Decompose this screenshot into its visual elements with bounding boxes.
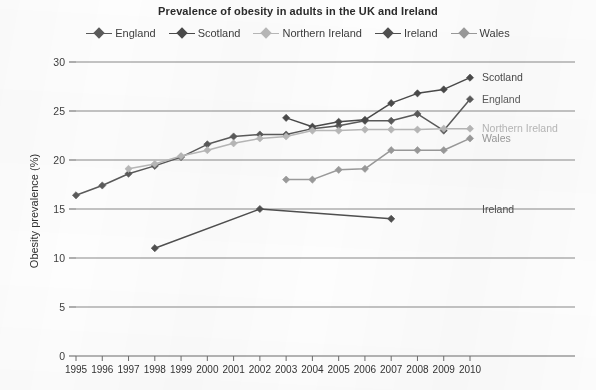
- x-tick-label-2001: 2001: [222, 364, 245, 375]
- x-tick-label-2003: 2003: [275, 364, 298, 375]
- y-tick-label-15: 15: [53, 203, 65, 215]
- data-point-marker: [230, 133, 237, 140]
- x-tick-label-2004: 2004: [301, 364, 324, 375]
- data-point-marker: [414, 90, 421, 97]
- x-tick-label-1998: 1998: [144, 364, 167, 375]
- data-point-marker: [151, 245, 158, 252]
- data-point-marker: [361, 126, 368, 133]
- x-tick-label-2000: 2000: [196, 364, 219, 375]
- series-end-labels: EnglandScotlandNorthern IrelandIrelandWa…: [482, 71, 558, 214]
- y-tick-label-30: 30: [53, 56, 65, 68]
- data-point-marker: [230, 140, 237, 147]
- x-tick-label-2006: 2006: [354, 364, 377, 375]
- data-point-marker: [440, 147, 447, 154]
- y-axis-title: Obesity prevalence (%): [28, 131, 40, 291]
- data-point-marker: [335, 166, 342, 173]
- data-point-marker: [414, 147, 421, 154]
- series-end-label-scotland: Scotland: [482, 71, 523, 83]
- series-line-ireland: [155, 209, 391, 248]
- y-tick-label-10: 10: [53, 252, 65, 264]
- data-point-marker: [466, 135, 473, 142]
- data-point-marker: [72, 192, 79, 199]
- x-tick-label-2008: 2008: [406, 364, 429, 375]
- y-tick-label-5: 5: [59, 301, 65, 313]
- x-tick-label-1999: 1999: [170, 364, 193, 375]
- data-point-marker: [283, 176, 290, 183]
- series-line-scotland: [286, 78, 470, 127]
- data-point-marker: [388, 215, 395, 222]
- line-chart-plot: 051015202530 199519961997199819992000200…: [0, 0, 596, 390]
- series-lines: [72, 74, 473, 252]
- x-tick-label-2010: 2010: [459, 364, 482, 375]
- data-point-marker: [388, 126, 395, 133]
- x-tick-label-2007: 2007: [380, 364, 403, 375]
- y-tick-label-20: 20: [53, 154, 65, 166]
- data-point-marker: [388, 117, 395, 124]
- x-tick-label-1995: 1995: [65, 364, 88, 375]
- data-point-marker: [388, 100, 395, 107]
- x-tick-label-1996: 1996: [91, 364, 114, 375]
- x-tick-label-1997: 1997: [117, 364, 140, 375]
- data-point-marker: [283, 114, 290, 121]
- chart-container: Prevalence of obesity in adults in the U…: [0, 0, 596, 390]
- x-tick-label-2002: 2002: [249, 364, 272, 375]
- data-point-marker: [125, 165, 132, 172]
- series-line-wales: [286, 138, 470, 179]
- data-point-marker: [361, 116, 368, 123]
- series-end-label-england: England: [482, 93, 521, 105]
- data-point-marker: [335, 127, 342, 134]
- y-tick-label-0: 0: [59, 350, 65, 362]
- data-point-marker: [256, 205, 263, 212]
- series-end-label-wales: Wales: [482, 132, 511, 144]
- x-tick-label-2005: 2005: [328, 364, 351, 375]
- data-point-marker: [414, 126, 421, 133]
- x-tick-label-2009: 2009: [433, 364, 456, 375]
- data-point-marker: [466, 125, 473, 132]
- data-point-marker: [440, 86, 447, 93]
- series-end-label-ireland: Ireland: [482, 203, 514, 215]
- data-point-marker: [309, 176, 316, 183]
- y-tick-label-25: 25: [53, 105, 65, 117]
- x-axis: 1995199619971998199920002001200220032004…: [65, 356, 482, 375]
- series-line-england: [76, 99, 470, 195]
- data-point-marker: [466, 74, 473, 81]
- data-point-marker: [99, 182, 106, 189]
- data-point-marker: [204, 147, 211, 154]
